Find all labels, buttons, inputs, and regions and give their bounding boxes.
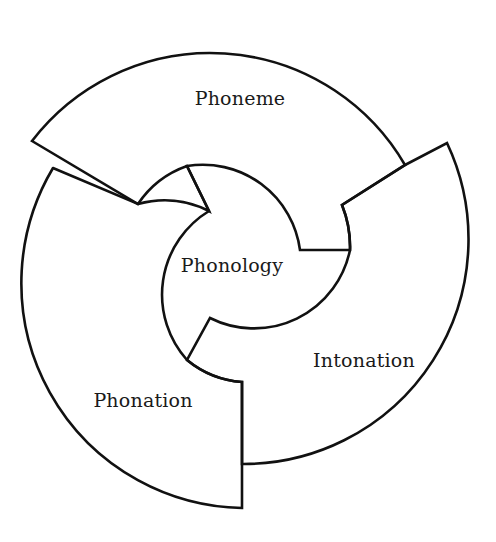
intonation-label: Intonation xyxy=(313,349,415,371)
phoneme-segment xyxy=(32,53,405,250)
phonation-label: Phonation xyxy=(93,389,192,411)
phonology-label: Phonology xyxy=(181,254,283,276)
phoneme-label: Phoneme xyxy=(195,87,286,109)
phonation-segment xyxy=(21,166,242,508)
intonation-segment xyxy=(187,143,469,464)
